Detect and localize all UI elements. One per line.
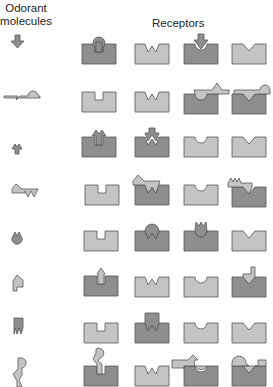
odorant-square-w [14,318,23,334]
odorant-complex [13,358,26,387]
row-8 [13,348,266,387]
receptor-2-4 [232,85,270,114]
receptor-7-4 [232,323,266,343]
row-5 [12,222,266,251]
receptor-5-3 [184,222,218,251]
receptor-3-1 [82,130,116,157]
receptor-1-4 [232,44,266,64]
odorant-round-w [12,232,22,244]
receptor-5-1 [84,231,118,251]
receptor-3-2 [135,128,169,157]
receptor-8-3 [172,355,218,386]
receptor-8-1 [84,348,118,386]
receptor-2-3 [184,83,229,114]
odorant-wave [4,91,40,100]
receptor-1-1 [82,37,116,64]
receptor-5-4 [232,231,266,251]
receptor-8-4 [232,356,266,386]
row-2 [4,83,270,114]
receptor-4-4 [228,178,266,207]
receptor-5-2 [135,224,169,251]
receptor-2-2 [135,92,169,112]
receptor-4-3 [184,185,218,205]
receptor-1-2 [135,44,169,64]
receptor-6-2 [135,277,169,297]
odorant-down-arrow [11,35,24,48]
receptor-7-3 [184,323,218,343]
row-4 [12,175,266,207]
receptor-2-1 [82,92,116,112]
odorant-arrow-up [13,275,23,291]
receptor-4-2 [133,175,169,205]
odorant-triangle-w [12,184,38,197]
row-3 [12,128,266,157]
receptor-7-2 [135,313,169,343]
receptor-6-4 [232,267,266,297]
odorant-arrow-w [12,144,22,154]
row-1 [11,34,266,64]
row-7 [14,313,266,343]
receptor-3-4 [232,137,266,157]
row-6 [13,267,266,297]
receptor-3-3 [184,137,218,157]
receptor-6-3 [184,277,218,297]
receptor-7-1 [84,323,118,343]
receptor-6-1 [84,268,118,296]
receptor-4-1 [85,185,119,205]
receptor-8-2 [135,366,169,386]
receptor-diagram [0,0,273,387]
receptor-1-3 [184,34,218,64]
